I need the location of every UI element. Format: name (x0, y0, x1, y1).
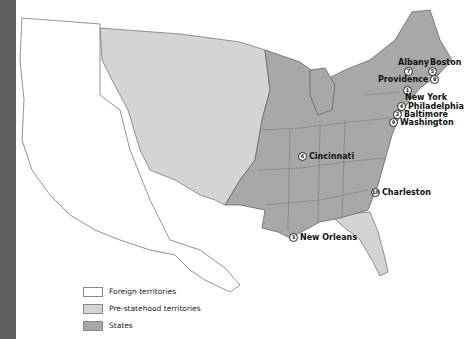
city-label: Boston (430, 58, 461, 67)
legend-label: Foreign territories (109, 287, 176, 296)
city-new-orleans: 3 New Orleans (289, 233, 357, 242)
legend-label: Pre-statehood territories (109, 304, 201, 313)
rank-badge: 3 (289, 233, 298, 242)
city-label: Providence (378, 75, 428, 84)
legend-swatch-pre-statehood (83, 304, 103, 314)
city-label: New York (405, 93, 447, 102)
legend-item-pre-statehood: Pre-statehood territories (83, 300, 201, 317)
city-boston: Boston (430, 58, 461, 67)
legend-item-states: States (83, 317, 201, 334)
city-new-york-label: New York (405, 93, 447, 102)
rank-badge: 10 (371, 188, 380, 197)
region-florida-territory (330, 212, 388, 276)
us-territorial-map (0, 0, 469, 339)
legend-swatch-foreign (83, 287, 103, 297)
map-legend: Foreign territories Pre-statehood territ… (83, 283, 201, 334)
city-charleston: 10 Charleston (371, 188, 431, 197)
legend-label: States (109, 321, 133, 330)
city-washington: 9 Washington (389, 118, 454, 127)
city-label: Charleston (382, 188, 431, 197)
city-label: Washington (400, 118, 454, 127)
city-providence: Providence 8 (378, 75, 439, 84)
city-label: New Orleans (300, 233, 357, 242)
legend-swatch-states (83, 321, 103, 331)
legend-item-foreign: Foreign territories (83, 283, 201, 300)
city-cincinnati: 6 Cincinnati (298, 152, 354, 161)
rank-badge: 8 (430, 75, 439, 84)
city-label: Cincinnati (309, 152, 354, 161)
city-label: Albany (398, 58, 429, 67)
rank-badge: 9 (389, 118, 398, 127)
city-albany: Albany (398, 58, 429, 67)
rank-badge: 6 (298, 152, 307, 161)
